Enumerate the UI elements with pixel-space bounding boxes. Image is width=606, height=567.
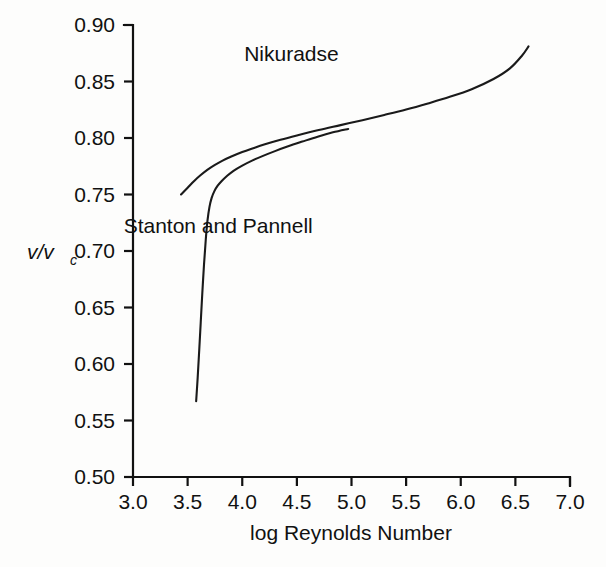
x-axis-title: log Reynolds Number [250,521,452,544]
reynolds-velocity-ratio-chart: 0.500.550.600.650.700.750.800.850.90 3.0… [0,0,606,567]
x-tick-label: 4.0 [228,490,257,513]
x-tick-label: 4.5 [282,490,311,513]
x-tick-label: 5.0 [337,490,366,513]
x-tick-label: 7.0 [555,490,584,513]
axes-group [124,25,570,486]
y-tick-label: 0.55 [74,409,115,432]
x-tick-label: 3.5 [173,490,202,513]
curve-stanton-and-pannell [196,129,348,401]
y-axis-title: v/v c [27,240,77,268]
x-tick-label: 3.0 [118,490,147,513]
y-axis-title-subscript: c [70,252,77,268]
x-tick-label: 5.5 [392,490,421,513]
y-tick-label: 0.65 [74,296,115,319]
y-tick-label: 0.70 [74,239,115,262]
curve-nikuradse [181,46,528,194]
y-tick-label: 0.75 [74,183,115,206]
y-tick-label: 0.80 [74,126,115,149]
y-tick-label: 0.60 [74,352,115,375]
x-tick-label: 6.5 [501,490,530,513]
series-label-stanton-and-pannell: Stanton and Pannell [124,214,313,237]
y-tick-label: 0.50 [74,465,115,488]
x-tick-label: 6.0 [446,490,475,513]
series-label-nikuradse: Nikuradse [244,42,339,65]
y-tick-label: 0.85 [74,70,115,93]
y-tick-label: 0.90 [74,13,115,36]
chart-figure: 0.500.550.600.650.700.750.800.850.90 3.0… [0,0,606,567]
y-axis-ticks: 0.500.550.600.650.700.750.800.850.90 [74,13,133,488]
x-axis-ticks: 3.03.54.04.55.05.56.06.57.0 [118,477,584,513]
y-axis-title-main: v/v [27,240,55,263]
